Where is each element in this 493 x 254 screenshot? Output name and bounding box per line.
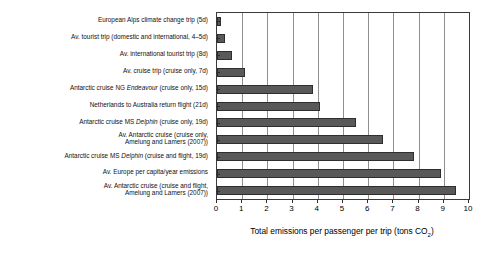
category-label-line: Av. international tourist trip (8d) [0, 50, 208, 57]
ship-name: Delphin [136, 118, 158, 125]
bar [217, 135, 383, 144]
bar [217, 118, 356, 127]
category-label: Antarctic cruise MS Delphin (cruise and … [0, 152, 208, 159]
x-axis-tick-label: 5 [340, 204, 344, 213]
category-label-line: Av. tourist trip (domestic and internati… [0, 33, 208, 40]
category-label: Netherlands to Australia return flight (… [0, 101, 208, 108]
category-label-line: Antarctic cruise MS Delphin (cruise only… [0, 118, 208, 125]
category-label: Av. Antarctic cruise (cruise and flight,… [0, 182, 208, 197]
x-axis-tick [392, 199, 393, 203]
x-axis-tick [418, 199, 419, 203]
category-label-line: Av. Antarctic cruise (cruise only, [0, 131, 208, 138]
y-axis-tick [216, 123, 220, 124]
x-axis-ticks: 012345678910 [216, 199, 468, 213]
category-label-line: Av. Europe per capita/year emissions [0, 168, 208, 175]
y-axis-tick [216, 106, 220, 107]
x-axis-tick [292, 199, 293, 203]
x-axis-tick-label: 10 [464, 204, 473, 213]
gridline [444, 13, 445, 199]
x-axis-title-end: ) [431, 226, 434, 236]
x-axis-tick-label: 1 [239, 204, 243, 213]
x-axis-tick-label: 8 [415, 204, 419, 213]
y-axis-tick [216, 72, 220, 73]
x-axis-tick-label: 7 [390, 204, 394, 213]
y-axis-tick [216, 55, 220, 56]
x-axis-tick [266, 199, 267, 203]
category-label-column: European Alps climate change trip (5d)Av… [0, 12, 212, 198]
x-axis-tick [241, 199, 242, 203]
x-axis-tick [367, 199, 368, 203]
y-axis-tick [216, 21, 220, 22]
category-label-line: Amelung and Lamers (2007)) [0, 189, 208, 196]
x-axis-title-main: Total emissions per passenger per trip (… [250, 226, 427, 236]
plot-area [216, 12, 470, 200]
x-axis-tick [317, 199, 318, 203]
bar [217, 85, 313, 94]
y-axis-tick [216, 89, 220, 90]
category-label-line: Antarctic cruise NG Endeavour (cruise on… [0, 84, 208, 91]
category-label: Av. tourist trip (domestic and internati… [0, 33, 208, 40]
x-axis-tick [443, 199, 444, 203]
category-label-line: Antarctic cruise MS Delphin (cruise and … [0, 152, 208, 159]
y-axis-tick [216, 191, 220, 192]
x-axis-tick-label: 2 [264, 204, 268, 213]
emissions-bar-chart: European Alps climate change trip (5d)Av… [0, 0, 493, 254]
x-axis-tick-label: 6 [365, 204, 369, 213]
category-label-line: Netherlands to Australia return flight (… [0, 101, 208, 108]
x-axis-tick-label: 3 [289, 204, 293, 213]
category-label: Av. Europe per capita/year emissions [0, 168, 208, 175]
category-label: European Alps climate change trip (5d) [0, 16, 208, 23]
y-axis-tick [216, 157, 220, 158]
x-axis-tick-label: 9 [441, 204, 445, 213]
x-axis-title: Total emissions per passenger per trip (… [216, 226, 468, 238]
x-axis-tick [342, 199, 343, 203]
bar [217, 102, 320, 111]
x-axis-tick [216, 199, 217, 203]
bar [217, 169, 441, 178]
category-label-line: Av. Antarctic cruise (cruise and flight, [0, 182, 208, 189]
ship-name: Delphin [121, 152, 143, 159]
y-axis-tick [216, 174, 220, 175]
category-label: Av. international tourist trip (8d) [0, 50, 208, 57]
category-label: Antarctic cruise NG Endeavour (cruise on… [0, 84, 208, 91]
x-axis-tick-label: 4 [315, 204, 319, 213]
x-axis-tick [468, 199, 469, 203]
category-label-line: Av. cruise trip (cruise only, 7d) [0, 67, 208, 74]
category-label-line: European Alps climate change trip (5d) [0, 16, 208, 23]
category-label: Av. cruise trip (cruise only, 7d) [0, 67, 208, 74]
y-axis-tick [216, 38, 220, 39]
bar [217, 186, 456, 195]
ship-name: Endeavour [127, 84, 158, 91]
category-label-line: Amelung and Lamers (2007)) [0, 138, 208, 145]
category-label: Antarctic cruise MS Delphin (cruise only… [0, 118, 208, 125]
category-label: Av. Antarctic cruise (cruise only,Amelun… [0, 131, 208, 146]
y-axis-tick [216, 140, 220, 141]
x-axis-tick-label: 0 [214, 204, 218, 213]
bar [217, 68, 245, 77]
bar [217, 152, 414, 161]
